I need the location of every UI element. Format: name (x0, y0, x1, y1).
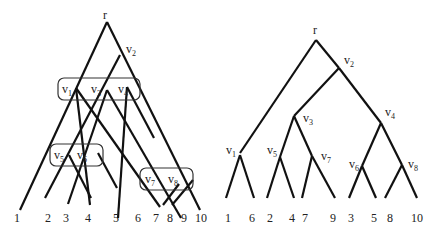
edge-v8-8 (385, 165, 402, 198)
node-label-v8: v8 (168, 172, 178, 188)
tree-diagrams: r v2 v1 v3 v4 v5 v6 v7 v8 1 2 3 4 5 6 7 … (0, 0, 439, 237)
node-label-v5: v5 (54, 148, 64, 164)
leaf-label: 2 (267, 211, 273, 225)
leaf-label: 8 (387, 211, 393, 225)
edge-v4-v6 (362, 123, 381, 166)
leaf-label: 1 (225, 211, 231, 225)
edge (98, 153, 117, 188)
leaf-label: 9 (330, 211, 336, 225)
edge-v1-1 (226, 155, 240, 198)
leaf-label: 7 (153, 211, 159, 225)
leaf-label: 10 (195, 211, 207, 225)
node-label-v8: v8 (408, 157, 418, 173)
edge-v1-6 (240, 155, 254, 198)
leaf-label: 2 (45, 211, 51, 225)
edge-v2-v4 (339, 68, 381, 123)
leaf-label: 7 (302, 211, 308, 225)
edge (107, 90, 181, 218)
leaf-label: 5 (113, 211, 119, 225)
leaf-label: 6 (249, 211, 255, 225)
node-label-v3: v3 (303, 111, 313, 127)
node-label-v2: v2 (126, 42, 136, 58)
edge-v2-v3 (294, 68, 339, 116)
node-label-v7: v7 (321, 149, 331, 165)
leaf-label: 4 (289, 211, 295, 225)
node-label-v3: v3 (91, 82, 101, 98)
node-label-v5: v5 (267, 143, 277, 159)
edge-v5-4 (280, 157, 294, 198)
node-label-v4: v4 (385, 105, 395, 121)
edge-v4-v8 (381, 123, 402, 165)
edge (118, 87, 127, 218)
right-tree: r v2 v3 v4 v1 v5 v7 v6 v8 1 6 2 4 7 9 3 … (225, 23, 423, 225)
leaf-label: 6 (135, 211, 141, 225)
root-label: r (313, 23, 317, 37)
node-label-v6: v6 (349, 157, 359, 173)
edge-v7-7 (302, 156, 312, 198)
left-tree: r v2 v1 v3 v4 v5 v6 v7 v8 1 2 3 4 5 6 7 … (14, 8, 207, 225)
node-label-v2: v2 (344, 53, 354, 69)
leaf-label: 10 (411, 211, 423, 225)
root-label: r (103, 8, 107, 22)
node-label-v4: v4 (118, 82, 128, 98)
edge-v3-v5 (280, 116, 294, 157)
edge-r-v2 (316, 40, 339, 68)
node-label-v1: v1 (62, 82, 72, 98)
node-label-v1: v1 (226, 143, 236, 159)
leaf-label: 9 (181, 211, 187, 225)
leaf-label: 5 (371, 211, 377, 225)
leaf-label: 8 (167, 211, 173, 225)
node-label-v7: v7 (145, 172, 155, 188)
edge-v6-5 (362, 166, 376, 198)
leaf-label: 1 (14, 211, 20, 225)
leaf-label: 4 (85, 211, 91, 225)
edge (20, 22, 107, 210)
edge-v5-2 (267, 157, 280, 198)
leaf-label: 3 (348, 211, 354, 225)
leaf-label: 3 (63, 211, 69, 225)
edge-r-v1 (240, 40, 316, 153)
